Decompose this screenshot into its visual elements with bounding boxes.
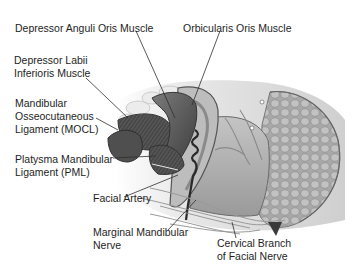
label-line: Depressor Labii [14, 54, 90, 67]
label-line: Ligament (MOCL) [15, 123, 98, 136]
label-orbicularis-oris: Orbicularis Oris Muscle [183, 22, 292, 35]
label-depressor-anguli-oris: Depressor Anguli Oris Muscle [15, 22, 153, 35]
label-line: Orbicularis Oris Muscle [183, 22, 292, 35]
label-line: Platysma Mandibular [15, 153, 113, 166]
label-line: Nerve [93, 239, 188, 252]
label-line: Cervical Branch [217, 237, 291, 250]
anatomy-diagram: Depressor Anguli Oris Muscle Orbicularis… [0, 0, 352, 270]
label-facial-artery: Facial Artery [93, 192, 151, 205]
label-cervical-branch-facial-nerve: Cervical Branch of Facial Nerve [217, 237, 291, 263]
label-pml: Platysma Mandibular Ligament (PML) [15, 153, 113, 179]
label-line: Inferioris Muscle [14, 67, 90, 80]
label-line: Mandibular [15, 97, 98, 110]
label-line: of Facial Nerve [217, 250, 291, 263]
label-line: Osseocutaneous [15, 110, 98, 123]
label-line: Depressor Anguli Oris Muscle [15, 22, 153, 35]
label-line: Facial Artery [93, 192, 151, 205]
label-mocl: Mandibular Osseocutaneous Ligament (MOCL… [15, 97, 98, 136]
label-line: Ligament (PML) [15, 166, 113, 179]
label-line: Marginal Mandibular [93, 226, 188, 239]
label-marginal-mandibular-nerve: Marginal Mandibular Nerve [93, 226, 188, 252]
label-depressor-labii-inferioris: Depressor Labii Inferioris Muscle [14, 54, 90, 80]
